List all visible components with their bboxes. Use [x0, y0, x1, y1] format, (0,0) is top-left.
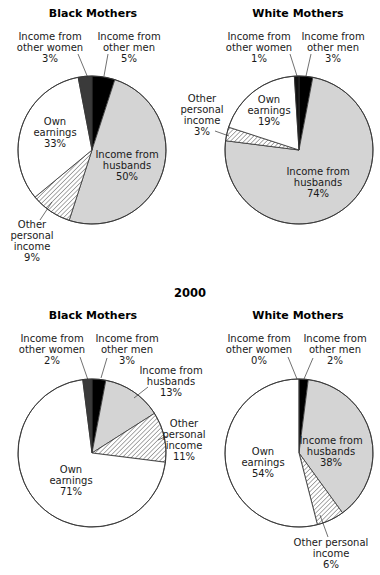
svg-text:71%: 71%: [60, 486, 82, 497]
svg-text:other women: other women: [19, 344, 85, 355]
svg-text:Income from: Income from: [95, 333, 158, 344]
svg-text:Income from: Income from: [20, 333, 83, 344]
leader-line: [134, 387, 148, 398]
svg-text:Other personal: Other personal: [294, 537, 369, 548]
leader-line: [78, 54, 88, 78]
leader-line: [101, 358, 107, 378]
pie-white-mothers-1: [225, 76, 373, 224]
leader-line: [104, 54, 108, 76]
svg-text:husbands: husbands: [294, 177, 342, 188]
svg-text:other men: other men: [307, 42, 359, 53]
svg-text:Income from: Income from: [95, 149, 158, 160]
svg-text:33%: 33%: [44, 138, 66, 149]
svg-text:earnings: earnings: [33, 127, 76, 138]
svg-text:income: income: [14, 241, 51, 252]
svg-text:personal: personal: [162, 429, 205, 440]
svg-text:Income from: Income from: [18, 31, 81, 42]
svg-text:Other: Other: [188, 93, 217, 104]
svg-text:3%: 3%: [119, 355, 135, 366]
svg-text:Own: Own: [258, 94, 280, 105]
svg-text:income: income: [313, 548, 350, 559]
svg-text:Income from: Income from: [97, 31, 160, 42]
svg-text:other women: other women: [226, 344, 292, 355]
svg-text:5%: 5%: [121, 53, 137, 64]
svg-text:3%: 3%: [325, 53, 341, 64]
label-other-women: Income from other women 0%: [226, 333, 292, 366]
svg-text:income: income: [166, 440, 203, 451]
svg-text:other women: other women: [17, 42, 83, 53]
svg-text:income: income: [184, 115, 221, 126]
svg-text:2%: 2%: [44, 355, 60, 366]
leader-line: [80, 357, 88, 380]
svg-text:0%: 0%: [251, 355, 267, 366]
svg-text:Income from: Income from: [139, 365, 202, 376]
svg-text:husbands: husbands: [307, 446, 355, 457]
label-other-personal-income: Other personal income 3%: [180, 93, 223, 137]
svg-text:11%: 11%: [173, 451, 195, 462]
svg-text:Other: Other: [18, 219, 47, 230]
svg-text:38%: 38%: [320, 457, 342, 468]
svg-text:other women: other women: [226, 42, 292, 53]
label-other-women: Income from other women 1%: [226, 31, 292, 64]
svg-text:husbands: husbands: [147, 376, 195, 387]
svg-text:Other: Other: [170, 418, 199, 429]
svg-text:Own: Own: [252, 446, 274, 457]
svg-text:3%: 3%: [42, 53, 58, 64]
svg-text:earnings: earnings: [49, 475, 92, 486]
svg-text:50%: 50%: [116, 171, 138, 182]
svg-text:Own: Own: [60, 464, 82, 475]
svg-text:Income from: Income from: [227, 333, 290, 344]
label-other-personal-income: Other personal income 11%: [162, 418, 205, 462]
leader-line: [304, 358, 313, 379]
svg-text:1%: 1%: [251, 53, 267, 64]
label-other-women: Income from other women 3%: [17, 31, 83, 64]
svg-text:personal: personal: [180, 104, 223, 115]
pie-black-mothers-2000: [18, 379, 166, 527]
svg-text:Own: Own: [44, 116, 66, 127]
pie-charts-figure: Black Mothers White Mothers 2000 Black M…: [0, 0, 380, 575]
leader-line: [288, 357, 297, 379]
label-other-personal-income: Other personal income 6%: [294, 537, 369, 570]
svg-text:54%: 54%: [252, 468, 274, 479]
svg-text:13%: 13%: [160, 387, 182, 398]
svg-text:6%: 6%: [323, 559, 339, 570]
label-other-personal-income: Other personal income 9%: [10, 219, 53, 263]
svg-text:earnings: earnings: [241, 457, 284, 468]
svg-text:Income from: Income from: [227, 31, 290, 42]
label-income-from-husbands: Income from husbands 13%: [139, 365, 202, 398]
label-other-women: Income from other women 2%: [19, 333, 85, 366]
svg-text:2%: 2%: [327, 355, 343, 366]
chart-title-white-mothers-2000: White Mothers: [252, 309, 344, 322]
leader-line: [290, 54, 297, 76]
label-other-men: Income from other men 3%: [95, 333, 158, 366]
svg-text:other men: other men: [101, 344, 153, 355]
svg-text:Income from: Income from: [286, 166, 349, 177]
chart-title-black-mothers-1: Black Mothers: [49, 7, 138, 20]
svg-text:Income from: Income from: [303, 333, 366, 344]
chart-title-white-mothers-1: White Mothers: [252, 7, 344, 20]
label-other-men: Income from other men 2%: [303, 333, 366, 366]
section-heading-2000: 2000: [174, 286, 206, 300]
svg-text:personal: personal: [10, 230, 53, 241]
svg-text:19%: 19%: [258, 116, 280, 127]
svg-text:earnings: earnings: [247, 105, 290, 116]
svg-text:74%: 74%: [307, 188, 329, 199]
chart-title-black-mothers-2000: Black Mothers: [49, 309, 138, 322]
svg-text:other men: other men: [103, 42, 155, 53]
svg-text:9%: 9%: [24, 252, 40, 263]
svg-text:Income from: Income from: [299, 435, 362, 446]
svg-text:husbands: husbands: [103, 160, 151, 171]
label-other-men: Income from other men 3%: [301, 31, 364, 64]
svg-text:Income from: Income from: [301, 31, 364, 42]
leader-line: [306, 54, 311, 76]
svg-text:other men: other men: [309, 344, 361, 355]
svg-text:3%: 3%: [194, 126, 210, 137]
